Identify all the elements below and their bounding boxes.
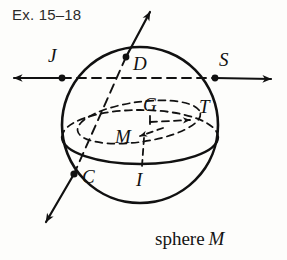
point-label-T: T: [199, 96, 211, 117]
ray-S-right: [215, 78, 271, 79]
caption-text: sphere: [155, 228, 205, 249]
segment-GT: [150, 120, 190, 122]
point-label-C: C: [82, 166, 95, 187]
point-label-D: D: [132, 53, 147, 74]
point-label-G: G: [143, 94, 157, 115]
caption-object-label: M: [205, 228, 225, 249]
point-dot-J: [59, 75, 66, 82]
segment-MI: [142, 138, 144, 166]
tilted-small-circle: [75, 94, 203, 151]
point-dot-D: [123, 54, 130, 61]
sphere-figure: Ex. 15–18: [0, 0, 287, 260]
ray-D-upper: [126, 12, 150, 57]
point-label-I: I: [135, 169, 144, 190]
sphere-diagram-svg: J D S G T M C I: [0, 0, 287, 260]
equator-front-arc: [62, 137, 218, 164]
point-dot-C: [70, 170, 77, 177]
pointer-to-center-M: [140, 128, 163, 136]
ray-C-lower: [46, 174, 74, 222]
figure-caption: sphereM: [155, 228, 224, 250]
point-label-M: M: [114, 126, 132, 147]
point-dot-S: [212, 75, 219, 82]
point-label-J: J: [48, 45, 58, 66]
point-label-S: S: [219, 49, 229, 70]
